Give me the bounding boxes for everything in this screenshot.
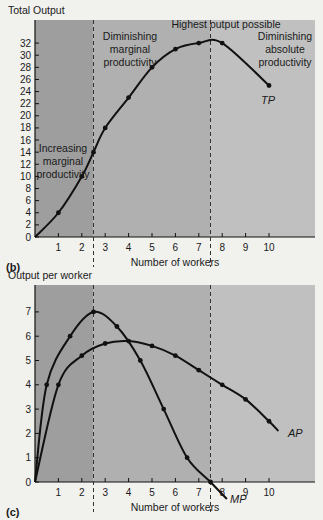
y-tick-label: 28 [20,62,32,73]
y-tick-label: 4 [25,379,31,390]
x-tick-label: 6 [173,242,179,253]
data-point [126,95,131,100]
production-chart: 1234567891002468101214161820222426283032… [0,0,323,520]
data-point [150,344,155,349]
data-point [267,419,272,424]
x-tick-label: 7 [196,487,202,498]
x-tick-label: 10 [263,242,275,253]
y-tick-label: 22 [20,98,32,109]
data-point [103,341,108,346]
region-diminishing-absolute [211,285,316,482]
curve-label-tp: TP [261,94,276,106]
data-point [44,382,49,387]
data-point [138,358,143,363]
panel-c-output-per-worker: 1234567891001234567Output per workerNumb… [6,269,315,518]
annotation-increasing: marginal [43,155,83,167]
x-axis-label: Number of workers [131,256,220,268]
annotation-highest-output: Highest output possible [171,18,280,30]
y-tick-label: 8 [25,183,31,194]
data-point [173,47,178,52]
data-point [91,150,96,155]
x-tick-label: 6 [173,487,179,498]
annotation-increasing: Increasing [39,142,88,154]
x-tick-label: 5 [149,242,155,253]
x-tick-label: 10 [263,487,275,498]
y-tick-label: 4 [25,207,31,218]
y-tick-label: 30 [20,50,32,61]
data-point [220,382,225,387]
data-point [208,480,213,485]
x-tick-label: 4 [126,242,132,253]
y-tick-label: 10 [20,171,32,182]
y-tick-label: 18 [20,122,32,133]
data-point [126,339,131,344]
y-tick-label: 1 [25,452,31,463]
data-point [267,83,272,88]
region-increasing [35,285,94,482]
data-point [220,41,225,46]
annotation-diminishing-absolute: Diminishing [258,30,312,42]
data-point [79,353,84,358]
panel-label: (c) [6,506,20,518]
x-tick-label: 1 [56,487,62,498]
x-tick-label: 2 [79,242,85,253]
x-tick-label: 5 [149,487,155,498]
x-axis-label: Number of workers [131,501,220,513]
data-point [68,334,73,339]
y-tick-label: 2 [25,428,31,439]
y-tick-label: 5 [25,355,31,366]
y-tick-label: 16 [20,135,32,146]
y-tick-label: 20 [20,110,32,121]
annotation-increasing: productivity [36,168,90,180]
y-tick-label: 14 [20,147,32,158]
data-point [196,368,201,373]
curve-label-mp: MP [230,493,247,505]
y-tick-label: 32 [20,38,32,49]
data-point [185,455,190,460]
y-tick-label: 6 [25,195,31,206]
x-tick-label: 3 [102,242,108,253]
data-point [91,310,96,315]
panel-b-total-output: 1234567891002468101214161820222426283032… [6,4,315,273]
annotation-diminishing-marginal: Diminishing [103,30,157,42]
x-tick-label: 4 [126,487,132,498]
x-tick-label: 7 [196,242,202,253]
y-tick-label: 26 [20,74,32,85]
annotation-diminishing-marginal: productivity [103,56,157,68]
annotation-diminishing-absolute: productivity [258,56,312,68]
y-tick-label: 7 [25,306,31,317]
data-point [243,397,248,402]
curve-label-ap: AP [287,427,303,439]
data-point [115,324,120,329]
y-tick-label: 0 [25,477,31,488]
data-point [196,41,201,46]
annotation-diminishing-absolute: absolute [265,43,305,55]
y-tick-label: 12 [20,159,32,170]
x-tick-label: 1 [56,242,62,253]
x-tick-label: 3 [102,487,108,498]
annotation-diminishing-marginal: marginal [110,43,150,55]
y-axis-label: Total Output [8,4,65,16]
y-tick-label: 24 [20,86,32,97]
data-point [161,407,166,412]
y-axis-label: Output per worker [8,269,93,281]
data-point [56,382,61,387]
data-point [56,210,61,215]
x-tick-label: 9 [243,242,249,253]
y-tick-label: 0 [25,232,31,243]
y-tick-label: 6 [25,331,31,342]
x-tick-label: 8 [219,242,225,253]
data-point [173,353,178,358]
y-tick-label: 2 [25,219,31,230]
data-point [103,126,108,131]
x-tick-label: 2 [79,487,85,498]
y-tick-label: 3 [25,404,31,415]
